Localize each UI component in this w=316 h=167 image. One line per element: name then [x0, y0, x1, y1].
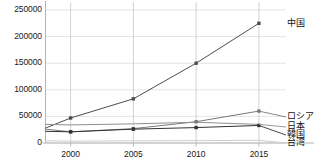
- y-tick-label: 250000: [14, 4, 42, 14]
- y-tick-label: 150000: [14, 57, 42, 67]
- legend-leader-lines: [259, 111, 286, 143]
- x-tick-label: 2010: [187, 149, 206, 159]
- series-line-0: [46, 23, 259, 128]
- x-tick-label: 2005: [124, 149, 143, 159]
- chart-canvas: [0, 0, 316, 167]
- gridlines-vertical: [71, 2, 259, 143]
- line-chart: 050000100000150000200000250000 200020052…: [0, 0, 316, 167]
- y-tick-label: 0: [37, 137, 42, 147]
- series-line-2: [46, 122, 259, 125]
- y-tick-label: 50000: [19, 110, 42, 120]
- series-marker-3-2: [132, 127, 135, 130]
- axis-ticks: [71, 143, 259, 147]
- x-tick-label: 2015: [250, 149, 269, 159]
- series-marker-1-3: [194, 120, 197, 123]
- y-tick-label: 100000: [14, 84, 42, 94]
- series-marker-3-1: [69, 130, 72, 133]
- series-label-0: 中国: [287, 19, 305, 28]
- series-label-4: 台湾: [287, 138, 305, 147]
- series-marker-0-2: [132, 97, 135, 100]
- series-label-1: ロシア: [287, 112, 314, 121]
- series-line-4: [46, 140, 259, 141]
- series-marker-0-4: [257, 22, 260, 25]
- y-tick-label: 200000: [14, 31, 42, 41]
- series-marker-0-1: [69, 116, 72, 119]
- axis-lines: [43, 1, 315, 143]
- x-tick-label: 2000: [61, 149, 80, 159]
- series-marker-3-3: [194, 126, 197, 129]
- series-lines: [46, 23, 259, 141]
- series-marker-0-3: [194, 62, 197, 65]
